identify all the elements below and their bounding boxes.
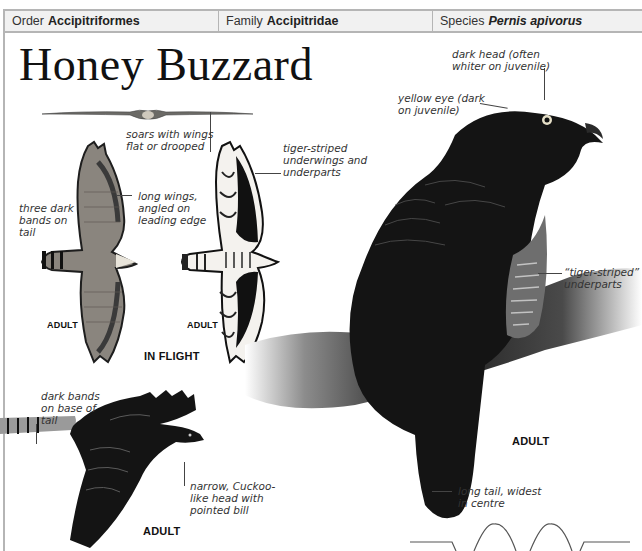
yellow-eye-note: yellow eye (dark on juvenile) [398, 92, 485, 116]
dark-head-leader-line [544, 68, 545, 100]
order-cell: Order Accipitriformes [5, 11, 219, 31]
adult-upperside-label: ADULT [47, 320, 78, 330]
adult-perched-label: ADULT [512, 435, 549, 447]
tiger-underparts-note: “tiger-striped” underparts [564, 266, 639, 290]
taxonomy-header: Order Accipitriformes Family Accipitrida… [3, 9, 642, 33]
dark-bands-leader-line [36, 424, 37, 444]
in-flight-label: IN FLIGHT [144, 350, 200, 362]
order-value: Accipitriformes [48, 14, 140, 28]
dark-bands-note: dark bands on base of tail [41, 390, 100, 426]
soaring-bird-illustration [40, 106, 255, 122]
order-label: Order [12, 14, 44, 28]
adult-flying-label: ADULT [143, 525, 180, 537]
tiger-underparts-leader-line [538, 273, 562, 274]
long-wings-leader-line [116, 195, 132, 196]
family-cell: Family Accipitridae [219, 11, 433, 31]
species-cell: Species Pernis apivorus [433, 11, 642, 31]
long-tail-note: long tail, widest in centre [458, 485, 541, 509]
narrow-head-note: narrow, Cuckoo- like head with pointed b… [190, 480, 275, 516]
flight-pattern-diagram [410, 522, 642, 551]
long-tail-leader-line [432, 491, 452, 492]
flight-upperside-illustration [38, 142, 148, 364]
tail-bands-note: three dark bands on tail [19, 202, 74, 238]
species-label: Species [440, 14, 484, 28]
perched-bird-photo [245, 95, 642, 535]
page-title: Honey Buzzard [19, 38, 313, 91]
species-value: Pernis apivorus [488, 14, 582, 28]
family-label: Family [226, 14, 263, 28]
family-value: Accipitridae [267, 14, 339, 28]
flying-bird-photo [0, 390, 215, 551]
narrow-head-leader-line [184, 462, 185, 486]
adult-underside-label: ADULT [187, 320, 218, 330]
dark-head-note: dark head (often whiter on juvenile) [452, 48, 550, 72]
